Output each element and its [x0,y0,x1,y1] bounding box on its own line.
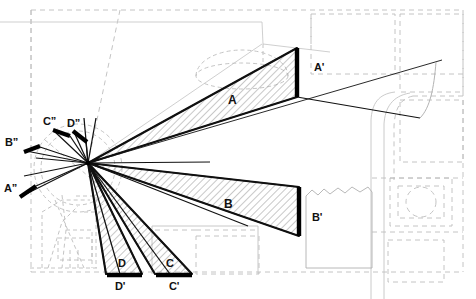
plan-lower-right-blocks [372,178,463,282]
plan-curved-road [371,92,410,299]
wedge-c-label: C [166,258,174,269]
target-d-label: D' [115,281,125,292]
plan-curved-road-dash [394,96,463,180]
station-point [86,161,91,166]
target-b-label: B' [312,212,322,223]
wedge-a-label: A [228,94,236,106]
proj-c-label: C” [43,116,56,127]
plan-irregular-boundary [306,187,372,268]
diagram-svg [0,0,476,299]
target-c-label: C' [169,281,179,292]
site-plan-underlay [0,10,463,299]
proj-b-label: B” [5,137,18,148]
plan-bottom-left-footprint [30,195,100,268]
proj-bar-c [53,130,70,136]
wedge-d-label: D [118,258,126,269]
visibility-wedges [88,48,299,274]
target-a-label: A' [314,62,324,73]
proj-bar-a [20,186,36,197]
wedge-b-label: B [224,198,232,210]
plan-right-blocks [311,14,463,162]
proj-d-label: D” [67,118,80,129]
isovist-diagram-canvas: A B C D A' B' C' D' A” B” C” D” [0,0,476,299]
proj-a-label: A” [4,183,17,194]
